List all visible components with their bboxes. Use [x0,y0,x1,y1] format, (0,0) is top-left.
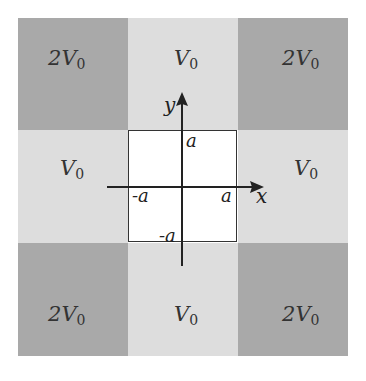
tick-neg-x: -a [132,185,149,206]
x-axis-label: x [256,184,267,208]
tick-pos-x: a [221,185,232,206]
axes [0,0,366,381]
y-axis-arrow-icon [176,92,188,106]
tick-neg-y: -a [159,225,176,246]
y-axis-label: y [164,93,175,117]
tick-pos-y: a [186,130,197,151]
